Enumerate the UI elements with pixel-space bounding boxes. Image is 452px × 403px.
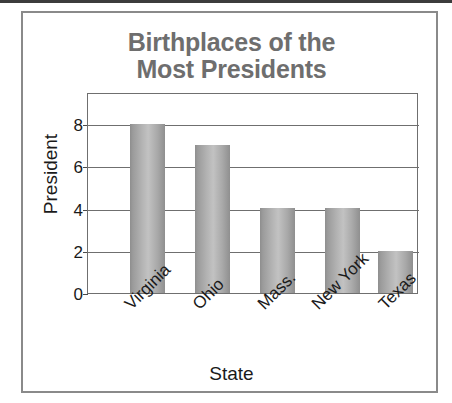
y-tick-mark-0	[83, 294, 88, 295]
y-tick-label-4: 4	[59, 202, 83, 219]
y-tick-label-8: 8	[59, 117, 83, 134]
x-axis-title: State	[23, 363, 440, 385]
chart-figure-frame: Birthplaces of the Most Presidents Presi…	[21, 11, 438, 393]
chart-title-line-1: Birthplaces of the	[23, 29, 440, 56]
chart-title: Birthplaces of the Most Presidents	[23, 29, 440, 83]
y-tick-label-0: 0	[59, 286, 83, 303]
y-tick-label-2: 2	[59, 244, 83, 261]
page-top-rule	[0, 0, 452, 3]
y-tick-label-6: 6	[59, 159, 83, 176]
y-axis-tick-group: 0 2 4 6 8	[53, 93, 83, 294]
chart-title-line-2: Most Presidents	[23, 56, 440, 83]
bar-ohio[interactable]	[195, 145, 230, 293]
